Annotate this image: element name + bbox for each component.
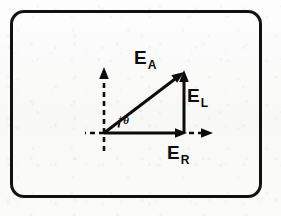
vector-EL-label-subscript: L <box>201 96 208 110</box>
vector-EA-group <box>104 72 184 133</box>
vector-ER-label-base: E <box>167 142 180 163</box>
angle-theta-plus-sign: + <box>118 113 123 123</box>
vector-EA-label-base: E <box>134 47 147 68</box>
vertical-axis-arrowhead <box>99 67 109 79</box>
vector-diagram-canvas <box>0 0 281 216</box>
vector-ER-group <box>104 128 187 138</box>
horizontal-axis-arrowhead <box>201 128 213 137</box>
vector-ER-label: ER <box>167 143 188 162</box>
vector-EL-label-base: E <box>187 85 200 106</box>
vector-EL-label: EL <box>187 86 207 105</box>
angle-theta-label: +θ <box>118 115 129 126</box>
vector-EA-label-subscript: A <box>148 58 157 72</box>
figure-screenshot: EA EL ER +θ <box>0 0 281 216</box>
vector-EA-shaft <box>104 79 175 133</box>
axes-group <box>85 67 213 151</box>
vector-ER-label-subscript: R <box>181 153 190 167</box>
angle-theta-symbol: θ <box>123 114 129 126</box>
vector-EA-label: EA <box>134 48 155 67</box>
